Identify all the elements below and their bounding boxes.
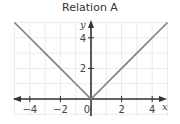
x-tick-label: −4 bbox=[22, 104, 37, 115]
x-tick-label: 0 bbox=[84, 104, 90, 115]
y-tick-label: 4 bbox=[80, 33, 86, 44]
y-tick-label: 2 bbox=[80, 63, 86, 74]
x-axis-label: x bbox=[162, 101, 168, 112]
x-tick-label: −2 bbox=[53, 104, 68, 115]
chart-plot: −4−202424 x y bbox=[0, 0, 180, 124]
tick-labels: −4−202424 bbox=[22, 33, 155, 115]
y-axis-label: y bbox=[79, 19, 86, 30]
x-tick-label: 2 bbox=[118, 104, 124, 115]
y-axis-arrow-up-icon bbox=[88, 20, 94, 28]
x-tick-label: 4 bbox=[149, 104, 155, 115]
